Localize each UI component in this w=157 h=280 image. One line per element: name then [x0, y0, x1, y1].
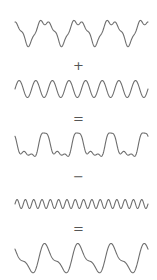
wave-4-high-frequency-sine — [15, 200, 148, 209]
plus-operator: + — [0, 59, 157, 72]
wave-5-result-signal — [15, 243, 148, 272]
wave-2-sine — [15, 81, 148, 98]
wave-diagram — [0, 0, 157, 280]
equals-operator-2: = — [0, 222, 157, 235]
minus-operator: − — [0, 170, 157, 183]
wave-3-sum-signal — [15, 133, 148, 156]
wave-1-complex-signal — [15, 20, 148, 46]
equals-operator: = — [0, 112, 157, 125]
